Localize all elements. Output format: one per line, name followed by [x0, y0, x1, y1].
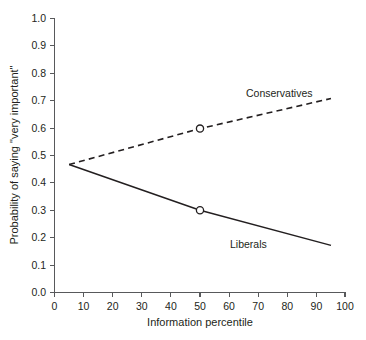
y-axis-title: Probability of saying "very important"	[8, 65, 20, 244]
y-tick-label: 0.0	[31, 286, 46, 298]
y-tick-label: 0.3	[31, 204, 46, 216]
x-axis-tick-labels: 0 10 20 30 40 50 60 70 80 90 100	[52, 300, 354, 312]
x-tick-label: 50	[194, 300, 206, 312]
x-tick-label: 70	[252, 300, 264, 312]
x-tick-label: 10	[78, 300, 90, 312]
y-tick-label: 0.1	[31, 259, 46, 271]
x-tick-label: 30	[136, 300, 148, 312]
y-tick-label: 0.8	[31, 67, 46, 79]
y-tick-label: 0.7	[31, 94, 46, 106]
line-chart: 1.0 0.9 0.8 0.7 0.6 0.5 0.4 0.3 0.2 0.1 …	[0, 0, 366, 340]
x-tick-label: 100	[336, 300, 354, 312]
data-point-marker-conservatives	[196, 125, 203, 132]
y-axis-tick-labels: 1.0 0.9 0.8 0.7 0.6 0.5 0.4 0.3 0.2 0.1 …	[31, 12, 46, 298]
x-tick-label: 90	[311, 300, 323, 312]
x-tick-label: 40	[165, 300, 177, 312]
series-label-conservatives: Conservatives	[246, 87, 313, 99]
y-axis-ticks	[50, 19, 54, 293]
y-tick-label: 1.0	[31, 12, 46, 24]
y-tick-label: 0.5	[31, 149, 46, 161]
x-axis-title: Information percentile	[147, 316, 253, 328]
y-tick-label: 0.9	[31, 39, 46, 51]
y-tick-label: 0.2	[31, 231, 46, 243]
y-tick-label: 0.6	[31, 122, 46, 134]
series-line-liberals	[69, 165, 331, 246]
x-tick-label: 20	[107, 300, 119, 312]
x-tick-label: 80	[281, 300, 293, 312]
x-tick-label: 60	[223, 300, 235, 312]
chart-figure: 1.0 0.9 0.8 0.7 0.6 0.5 0.4 0.3 0.2 0.1 …	[0, 0, 366, 340]
y-tick-label: 0.4	[31, 176, 46, 188]
data-point-marker-liberals	[196, 207, 203, 214]
x-tick-label: 0	[52, 300, 58, 312]
series-label-liberals: Liberals	[230, 238, 267, 250]
